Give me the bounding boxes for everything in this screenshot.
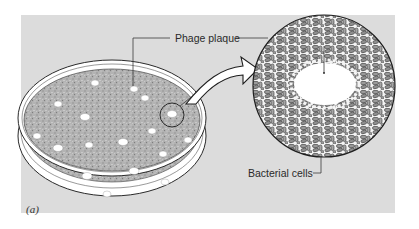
plaque xyxy=(159,151,167,157)
magnified-view xyxy=(253,15,395,157)
plaque xyxy=(80,114,90,121)
panel-label: (a) xyxy=(26,204,39,215)
agar-surface xyxy=(24,69,200,171)
cleared-plaque-zone xyxy=(294,63,356,105)
plaque xyxy=(118,139,128,146)
leader-end-dot xyxy=(323,72,325,74)
plaque xyxy=(33,133,41,139)
petri-dish xyxy=(18,60,206,197)
plaque xyxy=(53,145,63,152)
plaque xyxy=(103,191,111,197)
plaque xyxy=(184,137,192,143)
plaque xyxy=(130,86,138,92)
plaque xyxy=(129,168,139,175)
plaque xyxy=(82,173,92,180)
plaque xyxy=(161,179,169,185)
phage-plaque-diagram: Phage plaque Bacterial cells (a) xyxy=(0,0,419,229)
plaque xyxy=(141,95,149,101)
plaque xyxy=(85,142,93,148)
plaque-highlighted xyxy=(167,111,177,118)
bacterial-cells-label: Bacterial cells xyxy=(248,168,313,179)
plaque xyxy=(148,128,156,134)
plaque xyxy=(91,80,99,86)
plaque xyxy=(54,101,62,107)
phage-plaque-label: Phage plaque xyxy=(175,33,240,44)
